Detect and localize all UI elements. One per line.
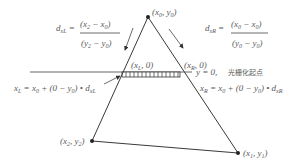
edge-top-left bbox=[92, 17, 148, 141]
svg-text:(y2 − y0): (y2 − y0) bbox=[81, 38, 112, 49]
formula-xl: xL = x0 + (0 − y0) • dxL bbox=[13, 83, 96, 94]
arrow-right-slope bbox=[169, 29, 183, 48]
edge-bottom bbox=[92, 141, 238, 153]
formula-dxr: dxR = (x0 − x0) (y0 − y0) bbox=[205, 19, 268, 49]
intersection-left-label: (xL, 0) bbox=[131, 60, 153, 71]
formula-dxl: dxL = (x2 − x0) (y2 − y0) bbox=[56, 19, 120, 49]
vertex-right-dot bbox=[236, 151, 240, 155]
scanline-label: y = 0, bbox=[195, 67, 217, 77]
svg-text:dxL =: dxL = bbox=[56, 23, 75, 34]
formula-xr: xR = x0 + (0 − y0) • dxR bbox=[199, 83, 283, 94]
svg-text:dxR =: dxR = bbox=[205, 23, 224, 34]
vertex-top-label: (x0, y0) bbox=[152, 7, 177, 18]
arrow-to-xl bbox=[104, 76, 120, 84]
svg-text:(y0 − y0): (y0 − y0) bbox=[232, 38, 263, 49]
vertex-right-label: (x1, y1) bbox=[243, 148, 268, 159]
svg-text:(x0 − x0): (x0 − x0) bbox=[231, 19, 262, 30]
scanline-label-cjk: 光栅化起点 bbox=[228, 68, 263, 77]
pixel-row bbox=[122, 72, 180, 77]
rasterization-diagram: (x0, y0) (x2, y2) (x1, y1) (xL, 0) (xR, … bbox=[0, 0, 303, 164]
diagram-canvas: (x0, y0) (x2, y2) (x1, y1) (xL, 0) (xR, … bbox=[0, 0, 303, 164]
vertex-top-dot bbox=[146, 15, 150, 19]
vertex-left-label: (x2, y2) bbox=[60, 136, 85, 147]
svg-text:(x2 − x0): (x2 − x0) bbox=[80, 19, 111, 30]
vertex-left-dot bbox=[90, 139, 94, 143]
arrow-left-slope bbox=[125, 28, 133, 50]
